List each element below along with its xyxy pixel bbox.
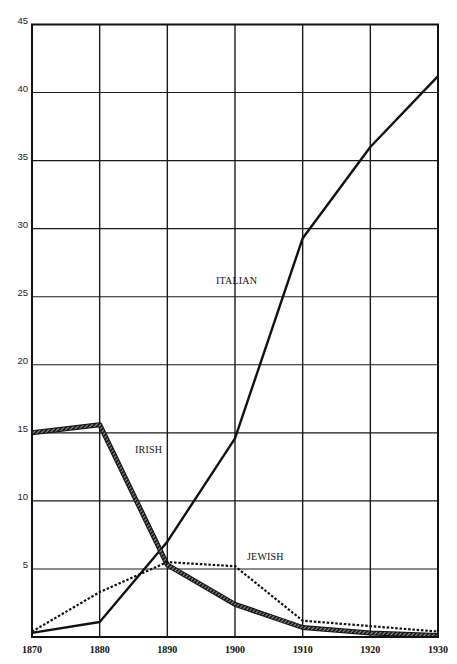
y-tick-label: 25	[17, 287, 28, 298]
x-tick-label: 1900	[225, 644, 245, 655]
x-axis-labels: 1870188018901900191019201930	[22, 644, 448, 655]
x-tick-label: 1920	[360, 644, 380, 655]
y-tick-label: 40	[17, 83, 28, 94]
x-tick-label: 1870	[22, 644, 42, 655]
y-tick-label: 5	[23, 559, 28, 570]
series-label-jewish: JEWISH	[247, 551, 284, 562]
x-tick-label: 1910	[293, 644, 313, 655]
y-tick-label: 10	[17, 491, 28, 502]
series-labels: ITALIANIRISHJEWISH	[135, 275, 284, 562]
y-tick-label: 20	[17, 355, 28, 366]
line-chart: 51015202530354045 1870188018901900191019…	[0, 0, 457, 664]
y-tick-label: 15	[17, 423, 28, 434]
x-tick-label: 1890	[157, 644, 177, 655]
y-tick-label: 30	[17, 219, 28, 230]
y-tick-label: 45	[17, 15, 28, 26]
y-axis-labels: 51015202530354045	[17, 15, 28, 570]
chart-grid	[32, 25, 438, 638]
y-tick-label: 35	[17, 151, 28, 162]
series-label-italian: ITALIAN	[216, 275, 257, 286]
series-label-irish: IRISH	[135, 444, 162, 455]
x-tick-label: 1880	[90, 644, 110, 655]
x-tick-label: 1930	[428, 644, 448, 655]
